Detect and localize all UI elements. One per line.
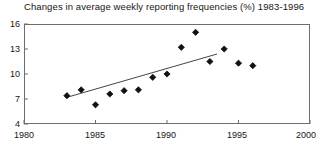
data-point [78, 87, 84, 93]
data-point [107, 91, 113, 97]
data-point [121, 88, 127, 94]
chart-container: Changes in average weekly reporting freq… [0, 0, 326, 151]
data-point [150, 74, 156, 80]
data-point [193, 29, 199, 35]
data-point [164, 71, 170, 77]
data-point [250, 63, 256, 69]
data-points [64, 29, 256, 108]
trend-line [67, 54, 217, 97]
data-point [92, 102, 98, 108]
data-point [178, 44, 184, 50]
data-point [221, 46, 227, 52]
data-point [64, 93, 70, 99]
data-point [135, 87, 141, 93]
chart-plot-svg [0, 0, 326, 151]
data-point [207, 58, 213, 64]
data-point [235, 60, 241, 66]
